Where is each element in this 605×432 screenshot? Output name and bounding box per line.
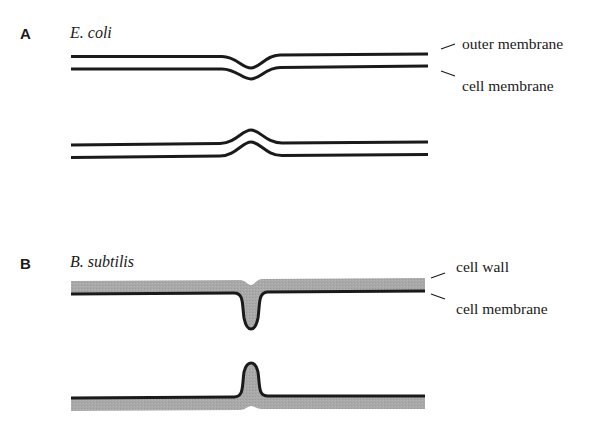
ecoli-protrusion bbox=[71, 130, 428, 158]
membrane-diagram bbox=[0, 0, 605, 432]
leader-outer-membrane bbox=[441, 44, 455, 49]
cell-wall-upper bbox=[71, 278, 425, 329]
bsubtilis-protrusion bbox=[71, 363, 425, 411]
bsubtilis-invagination bbox=[71, 278, 425, 329]
leader-cell-membrane-b bbox=[431, 294, 445, 299]
leader-cell-membrane-a bbox=[441, 71, 455, 76]
cell-wall-lower bbox=[71, 363, 425, 411]
leader-cell-wall bbox=[431, 273, 445, 278]
ecoli-invagination bbox=[71, 54, 428, 79]
